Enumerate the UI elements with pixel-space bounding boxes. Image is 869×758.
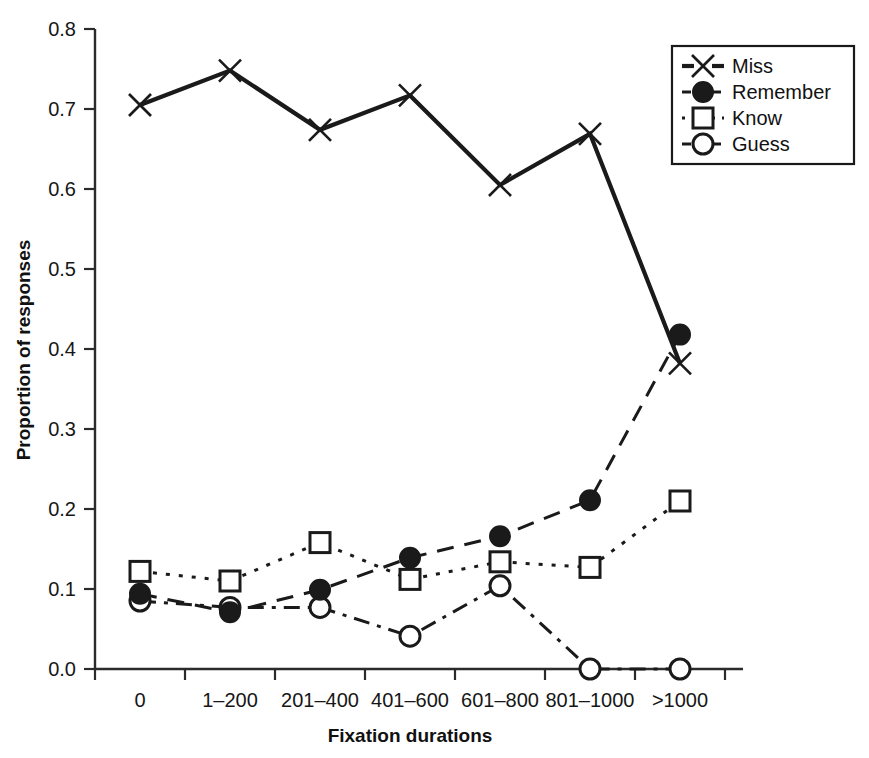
x-axis-title: Fixation durations [328,725,493,746]
data-point-open-square-marker [580,557,600,577]
x-tick-label: 201–400 [281,689,359,711]
data-point-open-square-marker [693,108,713,128]
data-point-open-circle-marker [670,659,690,679]
legend-item-label: Remember [732,81,831,103]
data-point-filled-circle-marker [490,526,510,546]
y-tick-label: 0.8 [48,18,76,40]
data-point-filled-circle-marker [693,82,713,102]
y-tick-label: 0.2 [48,498,76,520]
data-point-open-circle-marker [400,626,420,646]
data-point-filled-circle-marker [580,490,600,510]
x-tick-label: 801–1000 [546,689,635,711]
legend-item-label: Miss [732,55,773,77]
chart-page: 0.00.10.20.30.40.50.60.70.8 01–200201–40… [0,0,869,758]
x-tick-label: 0 [134,689,145,711]
x-tick-label: 1–200 [202,689,258,711]
data-point-filled-circle-marker [400,548,420,568]
data-point-open-square-marker [490,552,510,572]
data-point-open-circle-marker [580,659,600,679]
data-point-open-square-marker [130,561,150,581]
data-point-open-square-marker [220,571,240,591]
legend-item-label: Know [732,107,783,129]
x-tick-label: >1000 [652,689,708,711]
y-tick-label: 0.7 [48,98,76,120]
x-tick-label: 601–800 [461,689,539,711]
legend-item-know[interactable]: Know [682,107,783,129]
y-tick-label: 0.0 [48,658,76,680]
data-point-filled-circle-marker [310,580,330,600]
data-point-open-square-marker [310,533,330,553]
data-point-open-square-marker [670,491,690,511]
data-point-open-square-marker [400,569,420,589]
y-tick-label: 0.3 [48,418,76,440]
data-point-filled-circle-marker [220,602,240,622]
y-tick-label: 0.5 [48,258,76,280]
y-tick-label: 0.6 [48,178,76,200]
y-tick-label: 0.4 [48,338,76,360]
data-point-open-circle-marker [490,576,510,596]
legend-item-remember[interactable]: Remember [682,81,831,103]
y-axis-title: Proportion of responses [13,240,34,461]
data-point-open-circle-marker [693,134,713,154]
data-point-filled-circle-marker [130,584,150,604]
y-tick-label: 0.1 [48,578,76,600]
legend-item-guess[interactable]: Guess [682,133,790,155]
chart-legend: MissRememberKnowGuess [672,46,854,164]
x-tick-label: 401–600 [371,689,449,711]
line-chart: 0.00.10.20.30.40.50.60.70.8 01–200201–40… [0,0,869,758]
legend-item-label: Guess [732,133,790,155]
